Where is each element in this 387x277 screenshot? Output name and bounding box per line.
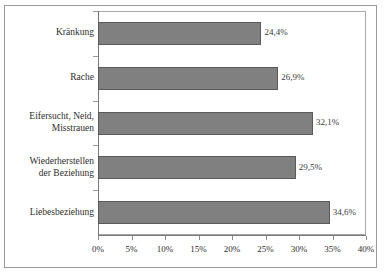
value-tick (266, 236, 267, 240)
value-tick (132, 236, 133, 240)
value-tick (232, 236, 233, 240)
category-label: Kränkung (6, 26, 94, 38)
bar (98, 67, 278, 90)
value-tick (165, 236, 166, 240)
value-tick (333, 236, 334, 240)
value-tick-label: 30% (282, 244, 316, 255)
category-tick (93, 101, 98, 102)
bar-value-label: 24,4% (264, 27, 287, 38)
value-tick-label: 5% (115, 244, 149, 255)
bar (98, 22, 261, 45)
value-tick-label: 20% (215, 244, 249, 255)
bar (98, 112, 313, 135)
value-tick-label: 40% (349, 244, 383, 255)
bar-value-label: 26,9% (281, 72, 304, 83)
value-tick (98, 236, 99, 240)
value-tick-label: 0% (81, 244, 115, 255)
bar-value-label: 29,5% (299, 162, 322, 173)
bar (98, 156, 296, 179)
value-tick (299, 236, 300, 240)
category-label: Eifersucht, Neid, Misstrauen (6, 110, 94, 134)
value-tick-label: 25% (249, 244, 283, 255)
category-tick (93, 56, 98, 57)
category-label: Rache (6, 71, 94, 83)
bar-value-label: 34,6% (333, 207, 356, 218)
bar-chart: 24,4%26,9%32,1%29,5%34,6% KränkungRacheE… (0, 0, 387, 277)
category-tick (93, 145, 98, 146)
value-tick (199, 236, 200, 240)
value-tick-label: 35% (316, 244, 350, 255)
value-tick-label: 15% (182, 244, 216, 255)
category-label: Liebesbeziehung (6, 206, 94, 218)
category-tick (93, 190, 98, 191)
value-tick-label: 10% (148, 244, 182, 255)
category-label: Wiederherstellen der Beziehung (6, 155, 94, 179)
category-tick (93, 11, 98, 12)
bar (98, 201, 330, 224)
bar-value-label: 32,1% (316, 117, 339, 128)
value-tick (366, 236, 367, 240)
